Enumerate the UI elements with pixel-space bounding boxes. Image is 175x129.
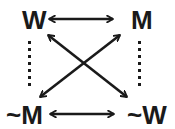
node-label-bottom-left: ~M [6, 100, 43, 129]
double-arrow-diagonal-w-notw [48, 35, 127, 97]
double-arrow-diagonal-m-notm [40, 35, 120, 97]
node-label-top-left: W [22, 5, 47, 35]
square-of-opposition-diagram: W M ~M ~W [0, 0, 175, 129]
node-label-bottom-right: ~W [127, 100, 167, 129]
node-label-top-right: M [131, 5, 153, 35]
